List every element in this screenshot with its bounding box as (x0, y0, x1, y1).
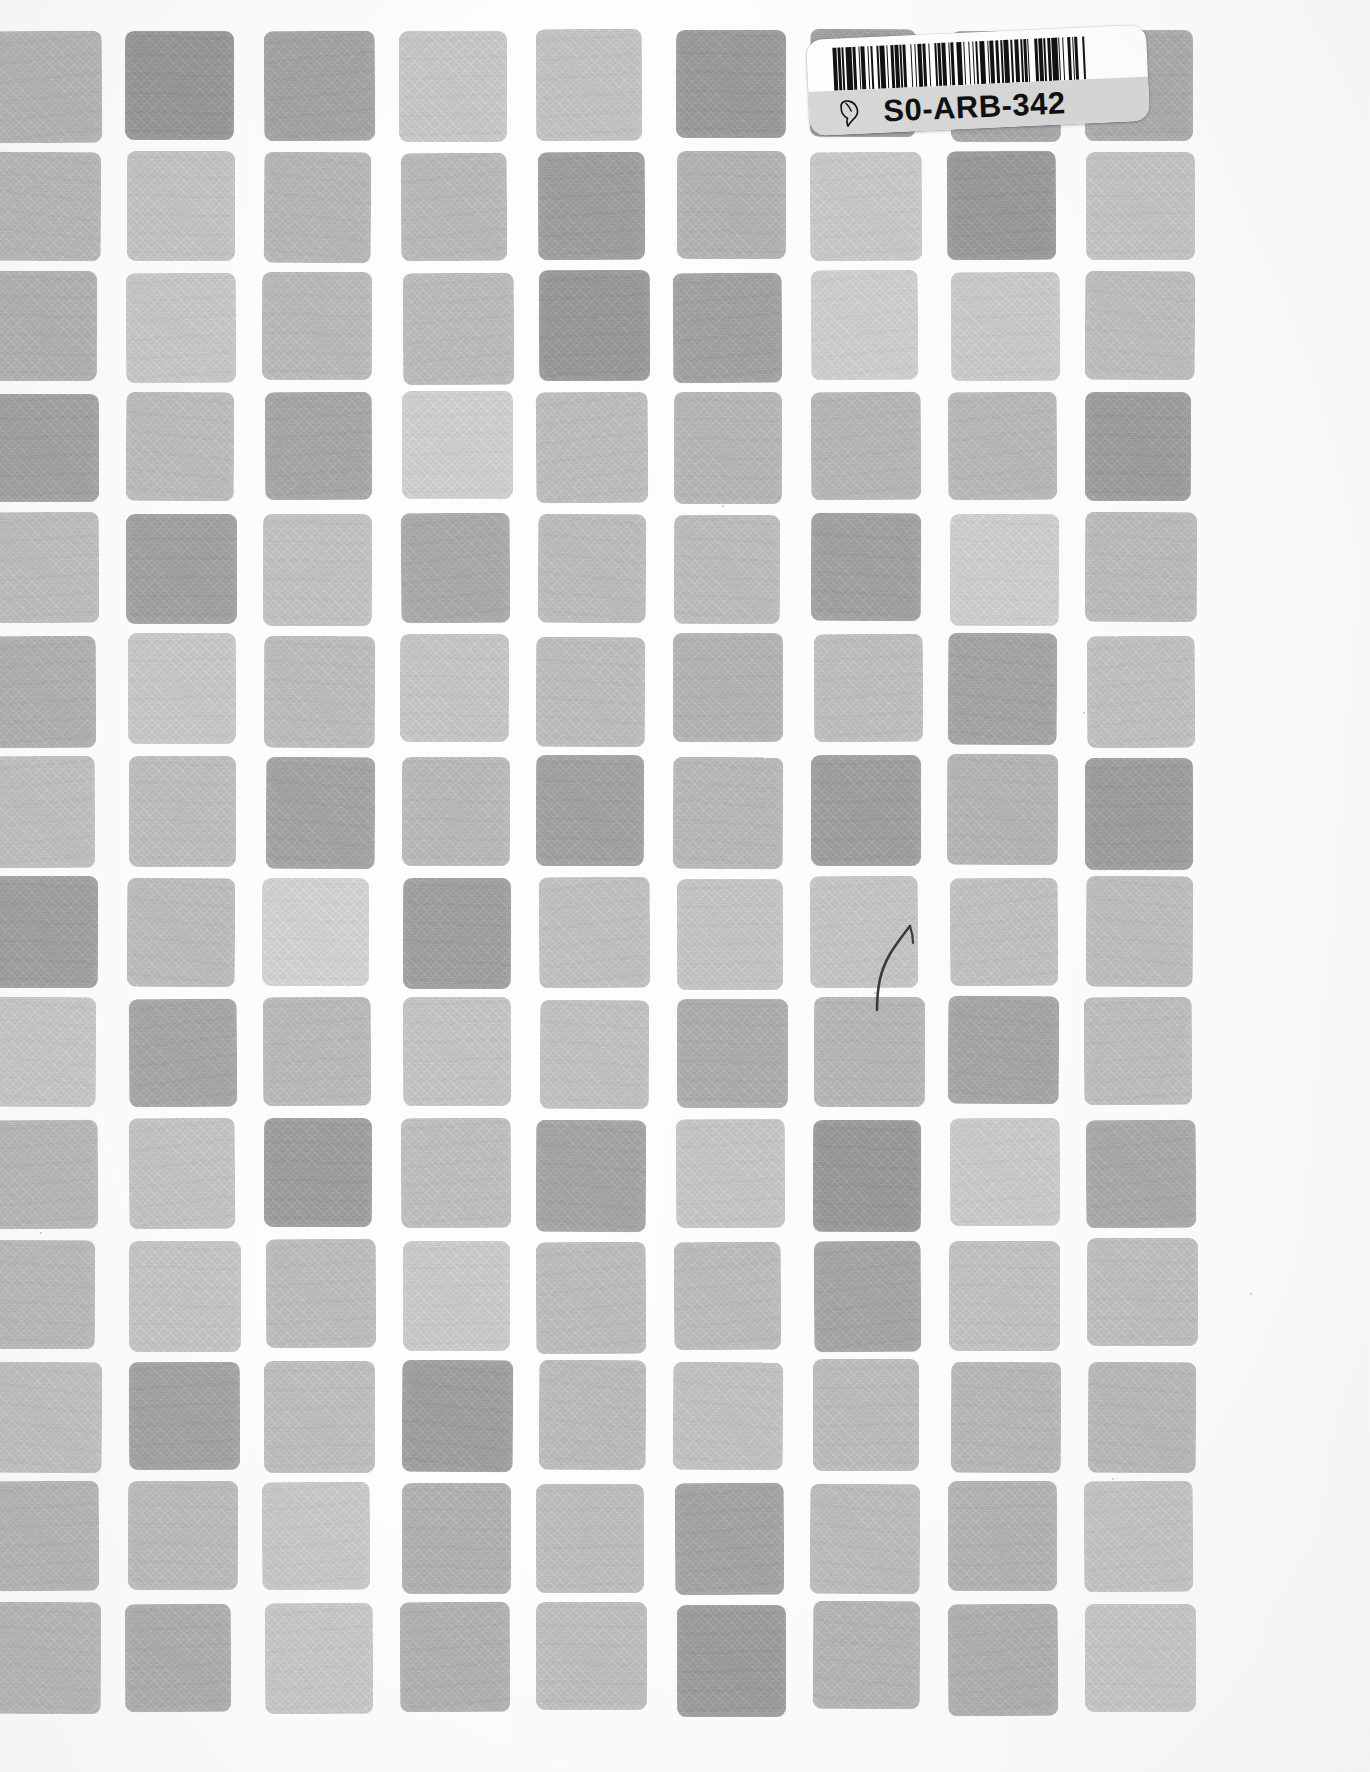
color-swatch (1086, 152, 1195, 260)
color-swatch (266, 1239, 377, 1348)
color-swatch (262, 877, 370, 985)
color-swatch (265, 392, 372, 500)
color-swatch (674, 1242, 782, 1351)
color-swatch (0, 756, 95, 868)
color-swatch (677, 999, 788, 1108)
color-swatch (677, 1605, 786, 1717)
color-swatch (1086, 875, 1194, 987)
color-swatch (129, 998, 238, 1107)
color-swatch (0, 996, 96, 1106)
color-swatch (402, 273, 513, 385)
color-swatch (813, 997, 924, 1107)
color-swatch (0, 876, 99, 989)
color-swatch (402, 391, 513, 499)
color-swatch (264, 31, 375, 141)
color-swatch (811, 392, 922, 501)
scan-speck (352, 1363, 354, 1365)
color-swatch (0, 31, 102, 144)
color-swatch (536, 1484, 644, 1593)
color-swatch (401, 152, 508, 261)
color-swatch (402, 1360, 514, 1472)
color-swatch (949, 1241, 1060, 1351)
color-swatch (673, 273, 782, 383)
color-swatch (264, 636, 376, 749)
color-swatch (398, 31, 506, 142)
color-swatch (947, 754, 1058, 865)
color-swatch (126, 392, 235, 501)
color-swatch (1085, 512, 1197, 622)
color-swatch (263, 152, 371, 263)
color-swatch (950, 1361, 1060, 1472)
color-swatch (950, 878, 1059, 986)
scan-speck (40, 1232, 42, 1234)
color-swatch (811, 755, 921, 866)
color-swatch (262, 272, 373, 380)
color-swatch (124, 1604, 231, 1712)
color-swatch (0, 1240, 95, 1349)
color-swatch (813, 1120, 921, 1233)
color-swatch (677, 150, 786, 258)
color-swatch (128, 1481, 238, 1590)
color-swatch (0, 394, 98, 502)
swatch-chart-page: S0-ARB-342 (0, 0, 1370, 1772)
color-swatch (537, 152, 644, 260)
color-swatch (403, 1241, 510, 1351)
barcode-label[interactable]: S0-ARB-342 (806, 25, 1150, 136)
color-swatch (0, 152, 101, 261)
color-swatch (1085, 1604, 1196, 1712)
color-swatch (809, 876, 917, 988)
color-swatch (677, 879, 783, 991)
color-swatch (540, 999, 649, 1108)
color-swatch (0, 1120, 99, 1230)
barcode-space (1084, 36, 1089, 79)
color-swatch (262, 996, 370, 1105)
color-swatch (538, 270, 649, 381)
color-swatch (0, 1602, 101, 1715)
color-swatch (947, 151, 1056, 260)
color-swatch (948, 996, 1059, 1104)
color-swatch (674, 392, 782, 504)
color-swatch (1088, 1362, 1197, 1474)
color-swatch (1087, 1238, 1199, 1346)
color-swatch (402, 757, 510, 866)
color-swatch (950, 1117, 1061, 1225)
color-swatch (129, 1118, 236, 1229)
scan-speck (1083, 712, 1085, 714)
color-swatch (128, 1361, 239, 1470)
color-swatch (673, 757, 783, 869)
scan-speck (310, 376, 312, 378)
color-swatch (1085, 270, 1195, 380)
color-swatch (129, 756, 236, 867)
color-swatch (0, 1361, 102, 1473)
color-swatch (126, 514, 236, 625)
color-swatch (0, 636, 96, 748)
color-swatch (813, 1359, 919, 1471)
color-swatch (265, 756, 375, 869)
color-swatch (536, 1120, 647, 1233)
color-swatch (947, 1604, 1058, 1717)
color-swatch (809, 1483, 919, 1594)
color-swatch (403, 997, 512, 1106)
scan-speck (1250, 1293, 1252, 1295)
color-swatch (536, 29, 643, 142)
color-swatch (402, 878, 510, 989)
color-swatch (401, 513, 511, 623)
color-swatch (125, 31, 234, 140)
color-swatch (673, 633, 783, 742)
color-swatch (675, 1482, 785, 1595)
color-swatch (536, 1241, 647, 1354)
scan-speck (722, 505, 724, 507)
color-swatch (400, 634, 509, 742)
color-swatch (536, 636, 645, 747)
color-swatch (127, 151, 235, 261)
color-swatch (401, 1118, 511, 1228)
color-swatch (948, 633, 1057, 745)
color-swatch (262, 1482, 370, 1591)
color-swatch (810, 152, 922, 262)
scan-speck (1112, 1478, 1114, 1480)
color-swatch (814, 634, 923, 742)
color-swatch (263, 514, 372, 626)
color-swatch (811, 270, 919, 381)
color-swatch (536, 755, 645, 866)
color-swatch (673, 1362, 784, 1470)
